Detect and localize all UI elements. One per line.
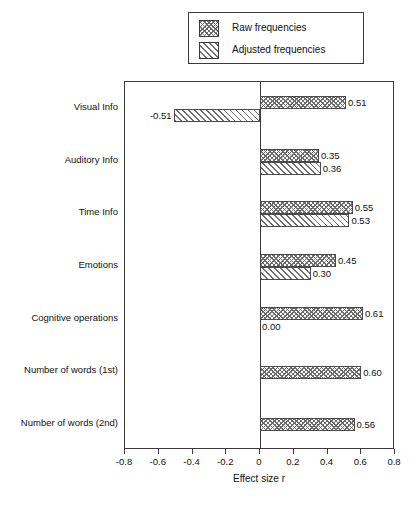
bar-raw-4	[260, 307, 363, 320]
x-axis-tick-label: 0.2	[286, 457, 299, 467]
bar-value-label: 0.35	[321, 151, 340, 161]
category-label-5: Number of words (1st)	[24, 365, 118, 375]
x-axis-tick-label: -0.4	[183, 457, 199, 467]
bar-value-label: 0.60	[363, 368, 382, 378]
chart-legend: Raw frequencies Adjusted frequencies	[188, 12, 364, 64]
x-axis-tick-label: -0.2	[217, 457, 233, 467]
x-axis-tick	[293, 449, 294, 454]
legend-item-adjusted-frequencies: Adjusted frequencies	[199, 40, 325, 60]
x-axis: Effect size r -0.8-0.6-0.4-0.200.20.40.6…	[124, 449, 394, 505]
bar-value-label: -0.51	[150, 111, 172, 121]
bar-value-label: 0.45	[338, 256, 357, 266]
bar-value-label: 0.53	[351, 216, 370, 226]
legend-item-raw-frequencies: Raw frequencies	[199, 18, 306, 38]
x-axis-tick	[192, 449, 193, 454]
bar-value-label: 0.36	[323, 164, 342, 174]
bar-raw-5	[260, 366, 361, 379]
category-label-0: Visual Info	[74, 102, 118, 112]
legend-swatch-raw-frequencies	[199, 20, 219, 37]
x-axis-tick	[394, 449, 395, 454]
chart-plot-area: 0.51-0.510.350.360.550.530.450.300.610.0…	[124, 81, 394, 449]
bar-value-label: 0.51	[348, 98, 367, 108]
category-axis-labels: Visual InfoAuditory InfoTime InfoEmotion…	[0, 81, 118, 449]
bar-raw-1	[260, 149, 319, 162]
x-axis-tick-label: 0	[256, 457, 261, 467]
category-label-3: Emotions	[78, 260, 118, 270]
bar-raw-3	[260, 254, 336, 267]
x-axis-tick-label: 0.8	[387, 457, 400, 467]
x-axis-tick-label: -0.6	[150, 457, 166, 467]
category-label-2: Time Info	[79, 207, 118, 217]
x-axis-tick	[360, 449, 361, 454]
x-axis-tick-label: 0.6	[354, 457, 367, 467]
bar-adjusted-1	[260, 162, 321, 175]
legend-label-adjusted-frequencies: Adjusted frequencies	[232, 45, 325, 55]
bar-adjusted-2	[260, 214, 349, 227]
bar-adjusted-3	[260, 267, 311, 280]
bar-raw-0	[260, 96, 346, 109]
x-axis-tick	[124, 449, 125, 454]
bar-raw-2	[260, 201, 353, 214]
x-axis-tick	[225, 449, 226, 454]
x-axis-tick	[158, 449, 159, 454]
bar-value-label: 0.56	[357, 420, 376, 430]
x-axis-tick	[259, 449, 260, 454]
bar-value-label: 0.30	[313, 269, 332, 279]
legend-label-raw-frequencies: Raw frequencies	[232, 23, 306, 33]
bar-raw-6	[260, 418, 355, 431]
x-axis-tick	[327, 449, 328, 454]
bar-value-label: 0.00	[262, 322, 281, 332]
category-label-1: Auditory Info	[65, 155, 118, 165]
category-label-6: Number of words (2nd)	[21, 418, 118, 428]
x-axis-tick-label: -0.8	[116, 457, 132, 467]
bar-value-label: 0.55	[355, 203, 374, 213]
bar-adjusted-0	[174, 109, 260, 122]
legend-swatch-adjusted-frequencies	[199, 42, 219, 59]
x-axis-tick-label: 0.4	[320, 457, 333, 467]
x-axis-title: Effect size r	[124, 474, 394, 484]
bar-value-label: 0.61	[365, 309, 384, 319]
category-label-4: Cognitive operations	[31, 313, 118, 323]
